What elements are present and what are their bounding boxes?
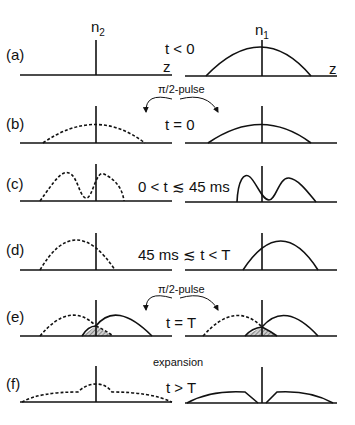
time-label-c: 0 < t ≲ 45 ms [138, 178, 230, 196]
pulse-label-e: π/2-pulse [158, 283, 205, 295]
panel-label-f: (f) [6, 375, 20, 392]
pulse-label-b: π/2-pulse [158, 83, 205, 95]
time-label-d: 45 ms ≲ t < T [138, 246, 230, 264]
time-label-e: t = T [166, 314, 196, 331]
arrow-right-icon [180, 296, 218, 310]
column-header-n2: n2 [91, 18, 105, 38]
figure: n2 n1 z z (a) (b) (c) (d) (e) (f) t < 0 … [0, 0, 355, 425]
expansion-label-f: expansion [153, 356, 203, 368]
arrow-left-icon [146, 97, 172, 112]
panel-label-e: (e) [6, 308, 24, 325]
n1-curve [208, 125, 311, 144]
time-label-b: t = 0 [165, 116, 195, 133]
n2-curve [43, 125, 145, 144]
time-label-a: t < 0 [165, 40, 195, 57]
axis-label-z-left: z [163, 58, 171, 75]
arrow-right-icon [180, 97, 218, 112]
n1-gaussian [206, 47, 311, 76]
column-header-n1: n1 [255, 21, 269, 41]
panel-label-d: (d) [6, 241, 24, 258]
time-label-f: t > T [166, 379, 196, 396]
panel-label-b: (b) [6, 115, 24, 132]
panel-label-a: (a) [6, 46, 24, 63]
panel-label-c: (c) [6, 175, 24, 192]
arrow-left-icon [146, 296, 172, 310]
axis-label-z-right: z [329, 60, 337, 77]
